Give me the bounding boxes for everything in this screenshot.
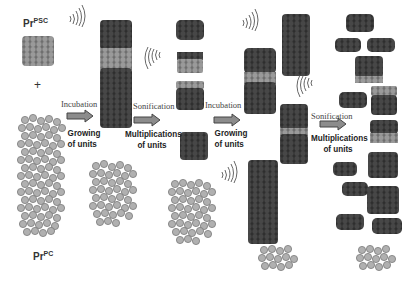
prpc-label: PrPC — [33, 250, 53, 262]
step3-action: Incubation — [205, 100, 241, 110]
prpsc-seed-aggregate — [22, 36, 54, 66]
step1-action: Incubation — [61, 99, 97, 109]
plus-sign: + — [34, 78, 41, 92]
incubation-arrow-1 — [67, 110, 93, 122]
sonification-arrow-1 — [134, 114, 160, 126]
step1-result: Growingof units — [68, 128, 97, 150]
grown-fibril-1 — [70, 5, 132, 128]
prpc-monomer-cloud — [17, 114, 65, 236]
step4-result: Multiplicationsof units — [311, 133, 365, 155]
step2-result: Multiplicationsof units — [125, 129, 179, 151]
monomer-cloud-3 — [168, 179, 215, 244]
grown-fibrils-2 — [222, 9, 310, 244]
monomer-cloud-2 — [89, 160, 136, 226]
step3-result: Growingof units — [215, 128, 244, 150]
monomer-cloud-5 — [356, 245, 395, 270]
monomer-cloud-4 — [258, 245, 297, 270]
step4-action: Sonification — [311, 111, 353, 121]
fragments-2 — [297, 14, 402, 234]
step2-action: Sonification — [133, 101, 175, 111]
prpsc-label: PrPSC — [23, 17, 48, 29]
incubation-arrow-2 — [214, 114, 240, 126]
